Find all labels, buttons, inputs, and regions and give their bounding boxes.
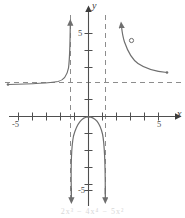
x-tick-label-neg5: -5 (12, 119, 19, 129)
x-tick-label-pos5: 5 (157, 119, 161, 129)
open-circle-hole-marker (129, 38, 133, 42)
rational-function-figure: y x -5 5 5 -5 2x³ − 4x⁴ − 5x² (0, 0, 185, 218)
y-axis-label: y (92, 0, 96, 11)
y-tick-label-neg5: -5 (78, 185, 85, 195)
curve-left-branch (7, 24, 71, 86)
x-axis-label: x (177, 108, 181, 119)
curve-right-branch (122, 27, 169, 74)
figure-caption: 2x³ − 4x⁴ − 5x² (0, 207, 185, 218)
y-tick-label-pos5: 5 (78, 28, 82, 38)
graph-canvas (0, 0, 185, 218)
